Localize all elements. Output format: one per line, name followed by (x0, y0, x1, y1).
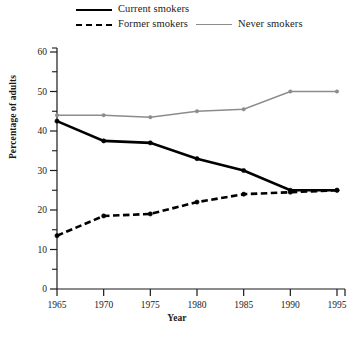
series-point-former-smokers (288, 190, 292, 194)
y-tick-label: 30 (38, 166, 48, 176)
series-point-never-smokers (242, 108, 245, 111)
y-tick-label: 20 (38, 205, 48, 215)
chart-figure: Current smokers Former smokers Never smo… (0, 0, 354, 337)
series-point-never-smokers (149, 115, 152, 118)
series-point-never-smokers (289, 90, 292, 93)
series-point-former-smokers (148, 212, 152, 216)
y-tick-label: 40 (38, 126, 48, 136)
series-point-current-smokers (55, 119, 59, 123)
series-point-former-smokers (195, 200, 199, 204)
series-point-current-smokers (102, 139, 106, 143)
series-point-current-smokers (242, 168, 246, 172)
chart-plot-area: 0102030405060196519701975198019851990199… (0, 0, 354, 337)
x-tick-label: 1980 (188, 300, 207, 310)
y-tick-label: 10 (38, 245, 48, 255)
x-tick-label: 1970 (94, 300, 113, 310)
series-point-never-smokers (55, 114, 58, 117)
series-point-former-smokers (335, 188, 339, 192)
x-tick-label: 1965 (48, 300, 67, 310)
chart-tick-labels: 0102030405060196519701975198019851990199… (38, 47, 347, 310)
x-axis-title: Year (0, 313, 354, 323)
chart-series (55, 90, 339, 238)
y-tick-label: 0 (42, 284, 47, 294)
chart-axes (50, 48, 345, 296)
series-line-former-smokers (57, 190, 337, 235)
y-axis-title: Percentage of adults (8, 57, 18, 177)
series-point-current-smokers (195, 157, 199, 161)
y-tick-label: 50 (38, 87, 48, 97)
series-point-current-smokers (148, 141, 152, 145)
series-point-former-smokers (55, 234, 59, 238)
series-point-never-smokers (335, 90, 338, 93)
series-point-former-smokers (242, 192, 246, 196)
series-line-current-smokers (57, 121, 337, 190)
y-tick-label: 60 (38, 47, 48, 57)
series-line-never-smokers (57, 92, 337, 118)
chart-canvas: 0102030405060196519701975198019851990199… (0, 0, 354, 337)
x-tick-label: 1985 (234, 300, 253, 310)
series-point-never-smokers (102, 114, 105, 117)
series-point-never-smokers (195, 110, 198, 113)
x-tick-label: 1995 (328, 300, 347, 310)
x-tick-label: 1975 (141, 300, 160, 310)
series-point-former-smokers (102, 214, 106, 218)
x-tick-label: 1990 (281, 300, 300, 310)
